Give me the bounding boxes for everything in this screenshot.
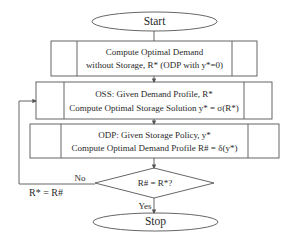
step3-line1: ODP: Given Storage Policy, y* xyxy=(61,129,248,141)
yes-label: Yes xyxy=(136,200,154,212)
decision-label: R# = R*? xyxy=(115,177,195,189)
step2-line1: OSS: Given Demand Profile, R* xyxy=(64,88,244,100)
stop-label: Stop xyxy=(93,215,218,227)
start-label: Start xyxy=(92,15,217,27)
step1-line2: without Storage, R* (ODP with y*=0) xyxy=(77,59,232,71)
step1-line1: Compute Optimal Demand xyxy=(77,46,232,58)
step3-line2: Compute Optimal Demand Profile R# = δ(y*… xyxy=(61,142,248,154)
no-label: No xyxy=(68,172,92,184)
feedback-label: R* = R# xyxy=(24,187,68,199)
step2-line2: Compute Optimal Storage Solution y* = σ(… xyxy=(64,102,244,114)
